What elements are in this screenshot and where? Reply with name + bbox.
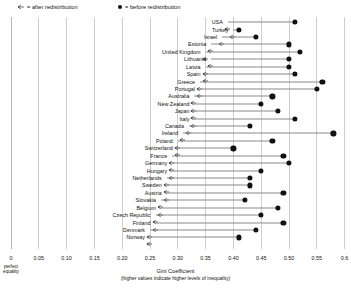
- x-tick-label: 0.05: [34, 255, 45, 261]
- row-label-israel: Israel: [204, 34, 217, 40]
- after-redistribution-marker: [197, 85, 204, 92]
- row-label-czech-republic: Czech Republic: [113, 212, 151, 218]
- row-label-united-kingdom: United Kingdom: [162, 49, 201, 55]
- after-redistribution-marker: [152, 219, 159, 226]
- connector-line: [194, 111, 277, 112]
- connector-line: [167, 178, 250, 179]
- row-label-spain: Spain: [187, 71, 201, 77]
- after-redistribution-marker: [174, 145, 181, 152]
- chart-row: Ireland: [0, 130, 351, 137]
- before-redistribution-marker: [236, 235, 241, 240]
- chart-row: Portugal: [0, 85, 351, 92]
- chart-row: Slovakia: [0, 197, 351, 204]
- after-redistribution-marker: [191, 100, 198, 107]
- x-tick-label: 0.30: [173, 255, 184, 261]
- legend-item-after: = after redistribution: [18, 4, 78, 10]
- chart-row: Belgium: [0, 204, 351, 211]
- before-redistribution-marker: [281, 190, 286, 195]
- before-redistribution-marker: [292, 116, 297, 121]
- after-redistribution-marker: [163, 175, 170, 182]
- row-label-italy: Italy: [179, 116, 189, 122]
- before-redistribution-marker: [253, 34, 258, 39]
- connector-line: [156, 215, 262, 216]
- connector-line: [206, 66, 289, 67]
- connector-line: [172, 170, 261, 171]
- after-redistribution-marker: [191, 115, 198, 122]
- chart-row: Denmark: [0, 226, 351, 233]
- before-redistribution-marker: [259, 101, 264, 106]
- connector-line: [228, 22, 295, 23]
- before-redistribution-marker: [281, 153, 286, 158]
- chart-row: Israel: [0, 33, 351, 40]
- connector-line: [200, 81, 322, 82]
- row-label-ireland: Ireland: [162, 130, 179, 136]
- x-tick-label: 0: [10, 255, 13, 261]
- chart-row: United Kingdom: [0, 48, 351, 55]
- filled-circle-icon: [118, 5, 122, 9]
- after-redistribution-marker: [191, 93, 198, 100]
- before-redistribution-marker: [259, 168, 264, 173]
- row-label-lithuania: Lithuania: [184, 56, 206, 62]
- before-redistribution-marker: [242, 198, 247, 203]
- x-tick-label: 0.15: [89, 255, 100, 261]
- chart-row: Japan: [0, 108, 351, 115]
- x-tick-label: 0.10: [61, 255, 72, 261]
- chart-row: Czech Republic: [0, 211, 351, 218]
- connector-line: [206, 74, 295, 75]
- row-label-greece: Greece: [177, 79, 195, 85]
- after-redistribution-marker: [169, 167, 176, 174]
- chart-row: Poland: [0, 137, 351, 144]
- row-label-japan: Japan: [175, 108, 190, 114]
- connector-line: [161, 200, 244, 201]
- chart-row: Spain: [0, 70, 351, 77]
- x-tick-label: 0.50: [284, 255, 295, 261]
- row-label-latvia: Latvia: [186, 64, 201, 70]
- legend-label-before: = before redistribution: [125, 4, 180, 10]
- x-tick-label: 0.25: [145, 255, 156, 261]
- row-label-switzerland: Switzerland: [145, 145, 173, 151]
- after-redistribution-marker: [191, 108, 198, 115]
- chart-row: Canada: [0, 122, 351, 129]
- x-axis-subtitle: (higher values indicate higher levels of…: [0, 275, 351, 281]
- row-label-turkey: Turkey: [212, 27, 228, 33]
- connector-line: [167, 192, 284, 193]
- chart-row: France: [0, 152, 351, 159]
- after-redistribution-marker: [147, 226, 154, 233]
- chart-row: Latvia: [0, 63, 351, 70]
- connector-line: [150, 237, 239, 238]
- connector-line: [194, 96, 272, 97]
- chart-row: Austria: [0, 189, 351, 196]
- before-redistribution-marker: [281, 220, 286, 225]
- x-tick-label: 0.35: [200, 255, 211, 261]
- chart-row: Australia: [0, 93, 351, 100]
- before-redistribution-marker: [286, 57, 291, 62]
- row-label-austria: Austria: [145, 190, 162, 196]
- connector-line: [194, 103, 261, 104]
- chart-row: Greece: [0, 78, 351, 85]
- chart-row: Turkey: [0, 26, 351, 33]
- before-redistribution-marker: [275, 109, 280, 114]
- connector-line: [194, 118, 294, 119]
- row-label-denmark: Denmark: [123, 227, 145, 233]
- chart-row: Hungary: [0, 167, 351, 174]
- after-redistribution-marker: [174, 137, 181, 144]
- row-label-estonia: Estonia: [188, 41, 206, 47]
- connector-line: [178, 148, 234, 149]
- before-redistribution-marker: [247, 175, 252, 180]
- chart-row: Finland: [0, 219, 351, 226]
- chart-row: Switzerland: [0, 145, 351, 152]
- after-redistribution-marker: [224, 19, 231, 26]
- row-label-australia: Australia: [168, 93, 189, 99]
- after-redistribution-marker: [147, 234, 154, 241]
- chart-row: New Zealand: [0, 100, 351, 107]
- before-redistribution-marker: [298, 49, 303, 54]
- row-label-portugal: Portugal: [175, 86, 195, 92]
- row-label-usa: USA: [212, 19, 223, 25]
- before-redistribution-marker: [231, 146, 236, 151]
- row-label-poland: Poland: [156, 138, 173, 144]
- row-label-germany: Germany: [145, 160, 167, 166]
- connector-line: [178, 140, 273, 141]
- after-redistribution-marker: [208, 41, 215, 48]
- after-redistribution-marker: [208, 56, 215, 63]
- after-redistribution-marker: [163, 189, 170, 196]
